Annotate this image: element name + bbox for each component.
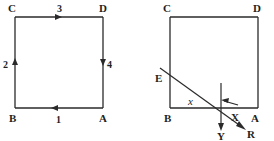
right-point-label-Y: Y <box>217 130 225 141</box>
left-vertex-label-B: B <box>9 112 17 124</box>
right-point-label-E: E <box>155 72 162 84</box>
left-edge-number-1: 1 <box>56 114 61 125</box>
right-point-label-R: R <box>247 128 256 140</box>
left-vertex-label-A: A <box>99 112 107 124</box>
right-vertex-label-A: A <box>251 112 259 124</box>
right-angle-label-X: X <box>231 111 239 123</box>
arrowhead-edge-4 <box>100 59 106 66</box>
geometry-canvas: C D A B 1 2 3 4 C D <box>0 0 274 141</box>
arrowhead-edge-1 <box>51 105 58 111</box>
right-vertex-label-C: C <box>163 2 171 14</box>
geometry-figure-root: C D A B 1 2 3 4 C D <box>0 0 274 141</box>
left-edge-number-4: 4 <box>107 59 112 70</box>
left-vertex-label-D: D <box>99 2 107 14</box>
right-square-group: C D A B E Y R X x <box>155 2 261 141</box>
left-square-group: C D A B 1 2 3 4 <box>3 2 112 125</box>
arrowhead-edge-3 <box>55 14 62 20</box>
right-vertex-label-D: D <box>253 2 261 14</box>
arrowhead-edge-2 <box>12 58 18 65</box>
arrowhead-bottom-edge <box>221 98 229 103</box>
right-angle-label-x: x <box>187 95 193 107</box>
left-edge-number-3: 3 <box>57 3 62 14</box>
transversal-line-ER <box>160 68 242 127</box>
left-edge-number-2: 2 <box>3 59 8 70</box>
right-vertex-label-B: B <box>164 112 172 124</box>
left-vertex-label-C: C <box>8 2 16 14</box>
